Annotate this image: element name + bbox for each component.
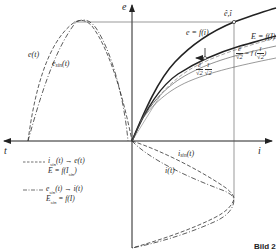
- label-e-sin-t: esin(t): [52, 60, 70, 69]
- rms-end: ): [264, 49, 266, 57]
- i-axis-label: i: [258, 146, 261, 156]
- label-e-t: e(t): [28, 51, 39, 59]
- label-e-sin-tail: (t): [62, 59, 70, 68]
- label-peak-point: ê,î: [224, 10, 232, 18]
- legend-dashed-line2: E = f(Isin): [48, 167, 85, 177]
- label-rms-point: ê√2 î√2: [196, 62, 212, 76]
- curve-e-sin-t: [28, 20, 128, 141]
- label-i-t: i(t): [165, 167, 175, 175]
- label-E-f-I: E = f(I): [251, 33, 276, 41]
- origin-ray-1: [132, 96, 160, 141]
- small-frac-i: î√2: [205, 62, 212, 76]
- legend-entry-dashed: isin(t) → e(t) E = f(Isin): [48, 157, 85, 178]
- rms-mid: = f (: [243, 49, 257, 57]
- label-i-sin-t: isin(t): [178, 150, 194, 159]
- figure-caption: Bild 2: [254, 242, 276, 251]
- label-e-f-i: e = f(i): [186, 29, 209, 37]
- voltage-time-curves: [28, 20, 132, 141]
- t-axis-label: t: [4, 146, 7, 156]
- origin-ray-2: [132, 102, 150, 141]
- rms-lhs-fraction: ê√2: [236, 46, 243, 60]
- legend-entry-dashdot: esin(t) → i(t) Esin = f(I): [46, 185, 83, 206]
- legend-dashdot-line2: Esin = f(I): [46, 195, 83, 205]
- rms-rhs-fraction: î√2: [257, 46, 264, 60]
- curve-e-t: [28, 20, 132, 141]
- legend-samples: [23, 162, 45, 190]
- magnetization-diagram: [0, 0, 278, 251]
- label-rms-sin-relation: ê√2 = f (î√2): [236, 46, 266, 60]
- rms-point: [204, 57, 207, 60]
- peak-point: [232, 20, 235, 23]
- small-frac-e: ê√2: [196, 62, 203, 76]
- helper-lines: [74, 22, 234, 198]
- vertical-axis-label: e: [122, 2, 126, 12]
